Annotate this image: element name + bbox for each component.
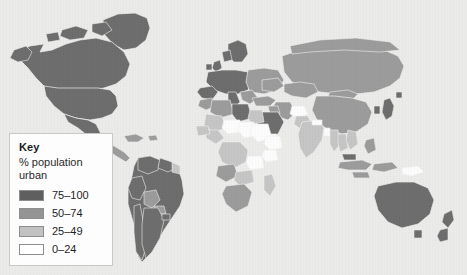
legend-class-list: 75–100 50–74 25–49 0–24 [19,188,104,257]
legend-label-25-49: 25–49 [52,226,83,237]
legend-swatch-0-24 [19,244,44,255]
legend-title: Key [19,141,104,154]
legend-swatch-25-49 [19,226,44,237]
legend-item: 75–100 [19,188,104,203]
legend-swatch-75-100 [19,190,44,201]
legend-label-50-74: 50–74 [52,208,83,219]
legend-item: 50–74 [19,206,104,221]
legend-item: 0–24 [19,242,104,257]
map-legend: Key % population urban 75–100 50–74 25–4… [9,133,113,266]
world-urbanisation-map: Key % population urban 75–100 50–74 25–4… [0,0,467,275]
legend-subtitle-line-1: % population [19,156,104,169]
legend-label-75-100: 75–100 [52,190,89,201]
legend-subtitle-line-2: urban [19,169,104,182]
legend-label-0-24: 0–24 [52,244,76,255]
legend-item: 25–49 [19,224,104,239]
legend-swatch-50-74 [19,208,44,219]
